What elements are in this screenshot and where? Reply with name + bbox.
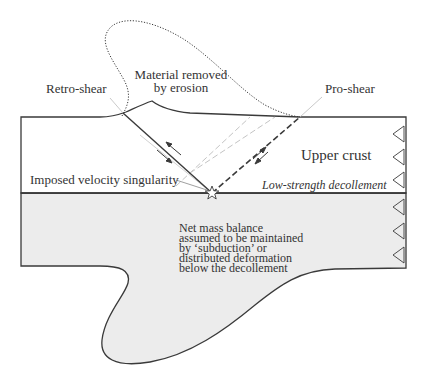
lower-crust-region <box>21 193 406 364</box>
mass-balance-line: below the decollement <box>179 263 303 273</box>
decollement-label: Low-strength decollement <box>262 179 387 192</box>
retro-shear-leader <box>110 98 123 113</box>
pro-shear-label: Pro-shear <box>325 82 375 95</box>
upper-crust-label: Upper crust <box>301 149 371 162</box>
retro-shear-label: Retro-shear <box>46 82 107 95</box>
material-removed-line2: by erosion <box>126 81 236 94</box>
material-removed-label: Material removed by erosion <box>126 68 236 94</box>
mass-balance-note: Net mass balance assumed to be maintaine… <box>179 223 303 273</box>
velocity-singularity-label: Imposed velocity singularity <box>30 173 179 186</box>
pro-shear-leader <box>300 97 322 117</box>
